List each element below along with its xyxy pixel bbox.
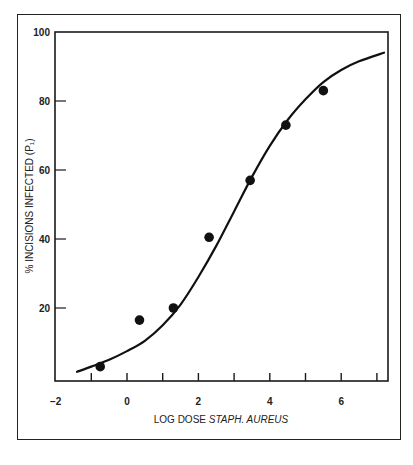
x-tick-label: −2 bbox=[50, 396, 62, 407]
chart: −20246 20406080100 LOG DOSE STAPH. AUREU… bbox=[0, 0, 413, 465]
y-axis-ticks: 20406080100 bbox=[33, 27, 66, 314]
data-point bbox=[281, 120, 291, 130]
fitted-curve bbox=[77, 53, 384, 372]
data-point bbox=[169, 303, 179, 313]
y-tick-label: 80 bbox=[39, 96, 51, 107]
x-axis-ticks: −20246 bbox=[50, 373, 377, 407]
data-point bbox=[319, 86, 329, 96]
y-tick-label: 60 bbox=[39, 165, 51, 176]
curve-line bbox=[77, 53, 384, 372]
data-points bbox=[95, 86, 328, 372]
x-tick-label: 4 bbox=[267, 396, 273, 407]
x-tick-label: 6 bbox=[338, 396, 344, 407]
data-point bbox=[204, 232, 214, 242]
data-point bbox=[135, 315, 145, 325]
data-point bbox=[245, 176, 255, 186]
x-tick-label: 0 bbox=[124, 396, 130, 407]
y-tick-label: 100 bbox=[33, 27, 50, 38]
x-axis-label: LOG DOSE STAPH. AUREUS bbox=[154, 414, 289, 425]
y-axis-label: % INCISIONS INFECTED (P₁) bbox=[24, 138, 35, 273]
y-tick-label: 20 bbox=[39, 303, 51, 314]
data-point bbox=[95, 362, 105, 372]
plot-area bbox=[55, 32, 388, 381]
plot-border bbox=[55, 32, 388, 381]
y-tick-label: 40 bbox=[39, 234, 51, 245]
x-tick-label: 2 bbox=[196, 396, 202, 407]
